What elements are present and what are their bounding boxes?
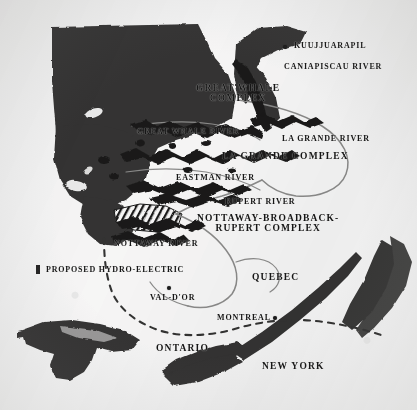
city-label-val-dor: VAL-D'OR — [150, 294, 195, 302]
river-label-la-grande-river: LA GRANDE RIVER — [282, 135, 370, 143]
complex-label-great-whale: GREAT WHALE COMPLEX — [196, 84, 280, 104]
city-label-kuujjuarapil: KUUJJUARAPIL — [294, 42, 366, 50]
region-label-ontario: ONTARIO — [156, 344, 209, 354]
legend-swatch-proposed-hydro-electric — [36, 265, 40, 274]
city-label-montreal: MONTREAL — [217, 314, 271, 322]
region-label-quebec: QUEBEC — [252, 273, 299, 283]
river-label-rupert-river: RUPERT RIVER — [225, 198, 295, 206]
eastern-coast-water — [342, 236, 412, 338]
river-label-caniapiscau-river: CANIAPISCAU RIVER — [284, 63, 382, 71]
complex-label-nottaway-broadback-rupert: NOTTAWAY-BROADBACK- RUPERT COMPLEX — [197, 214, 339, 234]
region-label-new-york: NEW YORK — [262, 362, 325, 372]
city-dot-montreal — [273, 316, 277, 320]
hydro-electric-map: PROPOSED HYDRO-ELECTRIC KUUJJUARAPIL VAL… — [0, 0, 417, 410]
river-label-great-whale-river: GREAT WHALE RIVER — [137, 128, 239, 136]
city-dot-kuujjuarapil — [283, 45, 287, 49]
complex-label-great-whale-line2: COMPLEX — [196, 94, 280, 104]
river-label-nottaway-river: NOTTAWAY RIVER — [114, 240, 198, 248]
st-lawrence-river-water — [232, 252, 362, 360]
complex-label-la-grande-line1: LA GRANDE COMPLEX — [222, 152, 349, 162]
city-dot-val-dor — [167, 286, 171, 290]
complex-label-la-grande: LA GRANDE COMPLEX — [222, 152, 349, 162]
river-label-eastman-river: EASTMAN RIVER — [176, 174, 255, 182]
complex-label-nbr-line2: RUPERT COMPLEX — [197, 224, 339, 234]
great-lakes-water — [18, 320, 140, 380]
legend-label-proposed-hydro-electric: PROPOSED HYDRO-ELECTRIC — [46, 266, 184, 274]
